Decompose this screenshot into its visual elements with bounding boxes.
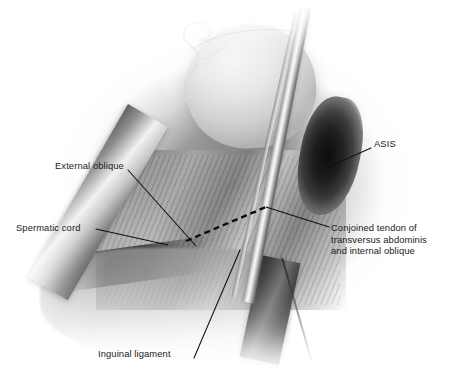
label-inguinal-ligament: Inguinal ligament — [98, 348, 171, 360]
label-spermatic-cord: Spermatic cord — [16, 222, 80, 234]
label-asis: ASIS — [374, 138, 396, 150]
leader-line-external-oblique — [128, 170, 196, 246]
label-external-oblique: External oblique — [55, 160, 124, 172]
leader-line-inguinal-ligament — [194, 250, 240, 358]
leader-line-conjoined-tendon — [266, 207, 329, 227]
dashed-incision-line — [186, 207, 266, 241]
label-conjoined-tendon: Conjoined tendon of transversus abdomini… — [331, 222, 427, 257]
leader-line-spermatic-cord — [96, 229, 168, 245]
annotation-overlay — [0, 0, 451, 376]
leader-line-asis — [326, 148, 371, 168]
inguinal-anatomy-figure: External oblique Spermatic cord ASIS Con… — [0, 0, 451, 376]
